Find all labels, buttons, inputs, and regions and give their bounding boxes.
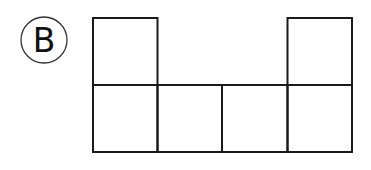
square-bottom-2 xyxy=(158,85,223,152)
square-net xyxy=(93,18,352,152)
square-top-left xyxy=(93,18,158,85)
square-bottom-4 xyxy=(288,85,353,152)
option-label-b: B xyxy=(21,17,67,63)
square-bottom-1 xyxy=(93,85,158,152)
square-bottom-3 xyxy=(222,85,288,152)
label-letter: B xyxy=(33,21,56,60)
figure: B xyxy=(0,0,371,170)
square-top-right xyxy=(288,18,353,85)
